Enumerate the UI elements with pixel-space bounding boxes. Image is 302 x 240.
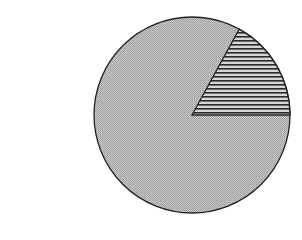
pie-slices [94, 17, 290, 213]
pie-svg [0, 0, 302, 240]
